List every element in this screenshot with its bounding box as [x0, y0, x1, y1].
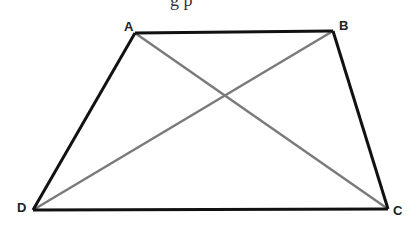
vertex-label-c: C — [393, 203, 402, 218]
diagonal-ac — [135, 33, 388, 209]
side-cd — [33, 209, 388, 210]
vertex-label-d: D — [17, 200, 26, 215]
vertex-label-b: B — [339, 18, 348, 33]
vertex-label-a: A — [124, 19, 133, 34]
diagonal-bd — [33, 31, 333, 210]
side-ab — [135, 31, 333, 33]
side-da — [33, 33, 135, 210]
trapezoid-diagram — [0, 0, 417, 226]
side-bc — [333, 31, 388, 209]
